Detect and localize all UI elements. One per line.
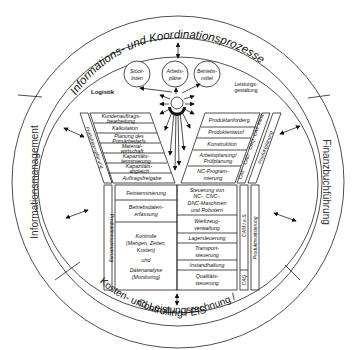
box-produktanforderung: Produktanforderg. bbox=[209, 117, 251, 123]
arrow-left-lower bbox=[66, 210, 88, 218]
box-nc-programmierung-1: NC-Program- bbox=[197, 168, 229, 174]
arrow-right-upper bbox=[280, 126, 300, 134]
ring-label-bottom-2: Controlling / EIS bbox=[136, 296, 208, 318]
box-werkzeug-1: Werkzeug- bbox=[194, 218, 220, 224]
arrow-left-upper bbox=[64, 128, 84, 137]
box-transport-2: steuerung bbox=[195, 252, 219, 258]
circle-betriebsmittel: Betriebs- mittel bbox=[194, 61, 220, 87]
box-kontrolle-1: Kontrolle bbox=[136, 233, 157, 239]
circle-arbeitsplaene: Arbeits- pläne bbox=[162, 61, 188, 87]
box-arbeitsplanung-2: Prüfplanung bbox=[204, 158, 233, 164]
box-kontrolle-4: und bbox=[142, 257, 152, 263]
label-cae: CAE bbox=[237, 168, 246, 180]
box-bde-1: Betriebsdaten- bbox=[129, 204, 164, 210]
box-kapazitaetsabgleich-2: abgleich bbox=[129, 168, 149, 174]
box-kontrolle-2: (Mengen, Zeiten, bbox=[126, 240, 166, 246]
ring-divider bbox=[18, 95, 42, 97]
label-caq: CAQ bbox=[246, 138, 255, 150]
label-caq-lower: CAQ bbox=[241, 274, 247, 285]
ring-divider bbox=[308, 95, 330, 98]
svg-text:pläne: pläne bbox=[168, 75, 181, 81]
box-kalkulation: Kalkulation bbox=[112, 125, 138, 131]
circle-stuecklisten: Stück- listen bbox=[124, 61, 150, 87]
ring-label-right: Finanzbuchführung bbox=[321, 139, 332, 225]
box-feinterminierung: Feinterminierung bbox=[126, 190, 166, 196]
ring-divider bbox=[285, 265, 300, 280]
box-kontrolle-3: Kosten) bbox=[137, 247, 155, 253]
box-lagersteuerung: Lagersteuerung bbox=[188, 235, 225, 241]
box-konstruktion: Konstruktion bbox=[207, 141, 236, 147]
label-produktionssteuerung: Produktionssteuerung bbox=[109, 214, 115, 263]
box-qualitaet-1: Qualitäts- bbox=[196, 273, 219, 279]
box-produktentwurf: Produktentwurf bbox=[208, 129, 244, 135]
svg-text:listen: listen bbox=[131, 75, 143, 81]
box-kundenauftrag-2: bearbeitung bbox=[107, 118, 135, 124]
box-steuerung-4: und Robotern bbox=[191, 207, 223, 213]
cim-y-model-diagram: Informations- und Koordinationsprozesse … bbox=[0, 0, 353, 350]
box-transport-1: Transport- bbox=[195, 245, 219, 251]
box-werkzeug-2: verwaltung bbox=[194, 225, 220, 231]
ring-label-left: Informationsmanagement bbox=[29, 125, 40, 239]
label-produktrealisierung: Produktrealisierung bbox=[252, 216, 258, 259]
header-leistungsgestaltung-2: gestaltung bbox=[234, 87, 257, 93]
svg-text:Betriebs-: Betriebs- bbox=[197, 68, 217, 74]
header-logistik: Logistik bbox=[91, 89, 115, 95]
label-cam: CAM i.e.S. bbox=[241, 213, 247, 237]
box-auftragsfreigabe: Auftragsfreigabe bbox=[122, 175, 162, 181]
box-steuerung-2: NC-, CNC-, bbox=[193, 193, 220, 199]
svg-text:Arbeits-: Arbeits- bbox=[165, 68, 184, 74]
box-qualitaet-2: steuerung bbox=[195, 280, 219, 286]
box-kontrolle-5: Datenanalyse bbox=[130, 267, 162, 273]
label-cad: CAD bbox=[241, 153, 250, 165]
ring-divider bbox=[55, 262, 80, 280]
box-instandhaltung: Instandhaltung bbox=[190, 262, 225, 268]
arrow-right-lower bbox=[274, 213, 296, 221]
box-kontrolle-6: (Monitoring) bbox=[132, 274, 160, 280]
svg-text:mittel: mittel bbox=[201, 75, 214, 81]
svg-text:Stück-: Stück- bbox=[130, 68, 145, 74]
box-nc-programmierung-2: mierung bbox=[203, 175, 222, 181]
box-steuerung-3: DNC-Maschinen bbox=[188, 200, 227, 206]
box-bde-2: erfassung bbox=[134, 211, 157, 217]
